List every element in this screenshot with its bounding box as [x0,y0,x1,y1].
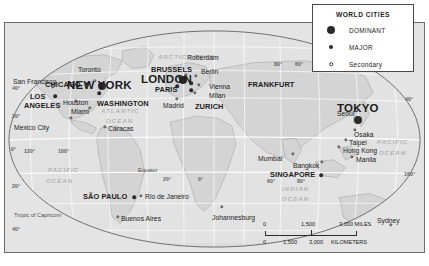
ocean-label: OCEAN [379,150,406,156]
city-dot-major[interactable] [319,173,323,177]
legend-item-label: MAJOR [349,44,373,51]
city-dot-dominant[interactable] [354,116,362,124]
ocean-label: OCEAN [46,178,73,184]
graticule-label: 60° [295,61,303,67]
graticule-label: 0° [198,176,203,182]
small-filled-circle-icon [329,45,333,49]
ocean-label: OCEAN [106,118,133,124]
city-label: Rotterdam [187,54,219,61]
reference-line-label: Equator [138,167,158,173]
graticule-label: 0° [11,146,16,152]
city-label: Milan [209,92,225,99]
city-label: San Francisco [13,78,56,85]
graticule-label: 100° [58,148,69,154]
city-label: Osaka [354,131,374,138]
city-label: FRANKFURT [248,80,294,89]
city-dot-major[interactable] [189,81,193,85]
city-label: Caracas [108,125,133,132]
city-label: SÃO PAULO [83,192,127,201]
city-label: Madrid [163,102,184,109]
city-dot-major[interactable] [85,82,89,86]
reference-line-label: Tropic of Capricorn [14,212,61,218]
city-label: Johannesburg [212,214,255,221]
graticule-label: 40° [12,85,20,91]
ocean-label: ATLANTIC [101,108,139,114]
legend-item-label: Secondary [349,61,382,68]
graticule-label: 40° [405,96,413,102]
city-label: Buenos Aires [121,215,161,222]
city-label: WASHINGTON [97,99,149,108]
small-open-circle-icon [329,62,333,66]
ocean-label: PACIFIC [377,139,408,145]
city-dot-major[interactable] [178,75,182,79]
city-label: Taipei [349,139,367,146]
city-label: Rio de Janeiro [145,193,189,200]
scale-km-mid: 1,500 [283,239,297,245]
city-label: ZURICH [195,102,224,111]
ocean-label: INDIAN [282,186,309,192]
scale-miles-mid: 1,500 [301,221,315,227]
ocean-label: OCEAN [282,196,309,202]
city-label: Miami [71,108,89,115]
city-label: ANGELES [24,101,60,110]
graticule-label: 80° [274,61,282,67]
scale-bar: 0 1,500 3,000 MILES 0 1,500 3,000 KILOME… [257,219,375,249]
scale-miles-end: 3,000 MILES [339,221,371,227]
graticule-label: 20° [12,183,20,189]
city-label: Manila [356,156,376,163]
scale-miles-start: 0 [263,221,266,227]
graticule-label: 20° [163,176,171,182]
graticule-label: 20° [12,113,20,119]
legend-item-label: DOMINANT [349,27,385,34]
city-label: Sydney [377,217,400,224]
map-legend[interactable]: WORLD CITIES DOMINANTMAJORSecondary [312,4,414,72]
scale-km-unit: KILOMETERS [331,239,367,245]
graticule-label: 40° [12,226,20,232]
scale-ruler [265,231,357,236]
city-dot-major[interactable] [97,91,101,95]
city-label: Bangkok [293,162,319,169]
city-label: Houston [63,99,88,106]
city-dot-major[interactable] [53,94,57,98]
city-label: LOS [30,92,46,101]
graticule-label: 120° [24,148,35,154]
city-dot-major[interactable] [132,195,136,199]
city-label: Mumbai [258,155,282,162]
city-label: Toronto [78,66,101,73]
world-map-screenshot: ARCTICOCEANATLANTICOCEANPACIFICOCEANPACI… [0,0,429,266]
city-label: Seoul [337,110,354,117]
scale-km-start: 0 [263,239,266,245]
city-label: SINGAPORE [270,170,315,179]
city-label: PARIS [155,85,178,94]
city-label: Vienna [209,83,230,90]
city-label: Hong Kong [343,147,377,154]
legend-item-dominant[interactable]: DOMINANT [313,23,413,37]
city-label: Berlin [201,68,218,75]
legend-item-major[interactable]: MAJOR [313,40,413,54]
scale-km-mid2: 3,000 [309,239,323,245]
legend-title: WORLD CITIES [313,11,413,18]
ocean-label: ARCTIC [158,54,187,60]
legend-item-secondary[interactable]: Secondary [313,57,413,71]
city-dot-major[interactable] [189,88,193,92]
city-label: Mexico City [14,124,49,131]
large-filled-circle-icon [327,26,335,34]
ocean-label: PACIFIC [48,167,79,173]
graticule-label: 160° [404,171,415,177]
